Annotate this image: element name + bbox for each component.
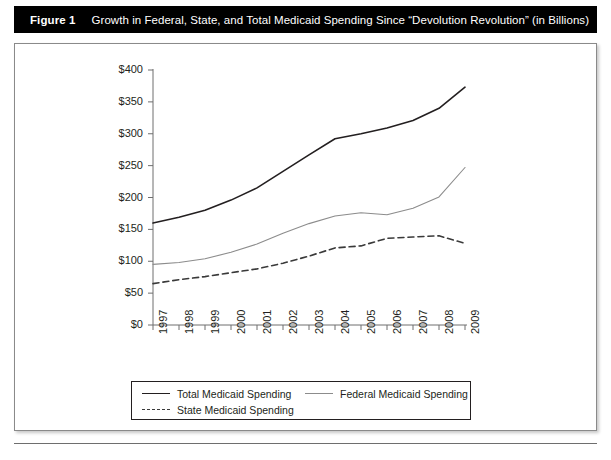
legend-label-total: Total Medicaid Spending xyxy=(177,388,291,400)
figure-title-bar: Figure 1 Growth in Federal, State, and T… xyxy=(14,6,597,33)
x-tick-label: 1999 xyxy=(210,310,221,334)
x-tick-label: 1998 xyxy=(184,310,195,334)
y-tick-label: $150 xyxy=(91,223,143,234)
y-tick-label: $50 xyxy=(91,287,143,298)
x-tick-label: 2004 xyxy=(340,310,351,334)
figure-number: Figure 1 xyxy=(30,14,76,26)
y-tick-label: $200 xyxy=(91,192,143,203)
chart-legend: Total Medicaid Spending Federal Medicaid… xyxy=(131,381,471,420)
legend-swatch-federal-icon xyxy=(305,389,333,399)
y-tick-label: $0 xyxy=(91,319,143,330)
legend-item-state: State Medicaid Spending xyxy=(142,404,294,416)
y-tick-label: $300 xyxy=(91,128,143,139)
legend-label-state: State Medicaid Spending xyxy=(177,404,294,416)
legend-swatch-state-icon xyxy=(142,405,170,415)
x-tick-label: 2006 xyxy=(392,310,403,334)
x-tick-label: 2005 xyxy=(366,310,377,334)
x-tick-label: 2003 xyxy=(314,310,325,334)
footer-divider xyxy=(14,443,597,444)
x-tick-label: 2008 xyxy=(444,310,455,334)
legend-label-federal: Federal Medicaid Spending xyxy=(340,388,468,400)
x-tick-label: 2000 xyxy=(236,310,247,334)
y-tick-label: $250 xyxy=(91,160,143,171)
figure-caption: Growth in Federal, State, and Total Medi… xyxy=(92,14,589,26)
x-tick-label: 2009 xyxy=(470,310,481,334)
x-tick-label: 1997 xyxy=(158,310,169,334)
x-tick-label: 2002 xyxy=(288,310,299,334)
legend-item-total: Total Medicaid Spending xyxy=(142,388,291,400)
y-tick-label: $350 xyxy=(91,96,143,107)
legend-swatch-total-icon xyxy=(142,389,170,399)
y-tick-label: $400 xyxy=(91,64,143,75)
footer-ghost-text xyxy=(16,452,596,460)
x-tick-label: 2007 xyxy=(418,310,429,334)
x-tick-label: 2001 xyxy=(262,310,273,334)
legend-item-federal: Federal Medicaid Spending xyxy=(305,388,468,400)
y-tick-label: $100 xyxy=(91,255,143,266)
